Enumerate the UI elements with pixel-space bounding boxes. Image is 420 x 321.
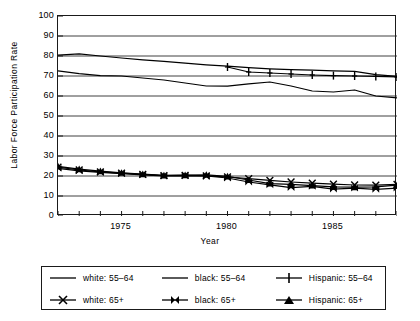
series-canvas [58,16,397,216]
legend-row-1: white: 55–64 black: 55–64 Hispanic: 55–6… [42,267,385,289]
y-tick-label: 100 [20,10,54,20]
series-line-1 [58,71,397,98]
y-tick-label: 60 [20,90,54,100]
legend-label: Hispanic: 55–64 [309,273,373,283]
legend: white: 55–64 black: 55–64 Hispanic: 55–6… [41,266,386,310]
plot-area [57,15,396,215]
y-tick-label: 0 [20,210,54,220]
legend-row-2: white: 65+ black: 65+ Hispanic: 65+ [42,289,385,311]
legend-symbol-plus-marker [274,272,304,284]
x-axis-tick-labels: 197519801985 [57,221,396,235]
x-tick-label: 1985 [322,221,343,231]
series-markers-2 [225,63,397,81]
legend-symbol-triangle-marker [274,294,304,306]
x-tick-label: 1975 [110,221,131,231]
legend-symbol-line [160,272,190,284]
legend-label: white: 65+ [83,295,124,305]
y-tick-label: 10 [20,190,54,200]
series-markers-5 [58,163,397,190]
x-tick-marks [58,211,397,216]
legend-label: black: 55–64 [195,273,246,283]
legend-symbol-x-marker [48,294,78,306]
y-tick-label: 50 [20,110,54,120]
y-tick-label: 90 [20,30,54,40]
y-tick-label: 70 [20,70,54,80]
x-axis-title: Year [0,236,420,246]
y-tick-label: 40 [20,130,54,140]
legend-item-black-55-64: black: 55–64 [154,272,268,284]
y-axis-tick-labels: 0102030405060708090100 [16,15,54,215]
y-tick-label: 30 [20,150,54,160]
legend-item-hispanic-55-64: Hispanic: 55–64 [268,272,385,284]
legend-label: white: 55–64 [83,273,134,283]
legend-label: Hispanic: 65+ [309,295,363,305]
legend-item-hispanic-65plus: Hispanic: 65+ [268,294,385,306]
y-tick-label: 20 [20,170,54,180]
legend-symbol-bowtie-marker [160,294,190,306]
legend-symbol-line [48,272,78,284]
x-tick-label: 1980 [216,221,237,231]
legend-item-black-65plus: black: 65+ [154,294,268,306]
legend-item-white-65plus: white: 65+ [42,294,154,306]
y-tick-label: 80 [20,50,54,60]
legend-item-white-55-64: white: 55–64 [42,272,154,284]
chart-figure: Labor Force Participation Rate 010203040… [0,0,420,321]
legend-label: black: 65+ [195,295,236,305]
